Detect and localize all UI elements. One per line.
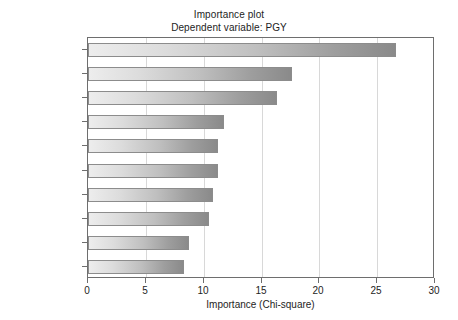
bar[interactable] [88, 212, 209, 226]
y-axis-tick-mark [82, 145, 87, 146]
bar[interactable] [88, 188, 213, 202]
y-axis-tick-mark [82, 73, 87, 74]
bar-row[interactable] [88, 139, 433, 153]
bar[interactable] [88, 164, 218, 178]
x-axis-tick-label: 30 [414, 285, 454, 296]
x-axis-tick-label: 25 [356, 285, 396, 296]
bar-row[interactable] [88, 91, 433, 105]
bar-row[interactable] [88, 236, 433, 250]
chart-title: Importance plot [0, 8, 458, 21]
bar[interactable] [88, 260, 184, 274]
bar[interactable] [88, 115, 224, 129]
bar[interactable] [88, 67, 292, 81]
x-axis-tick-mark [145, 278, 146, 283]
x-axis-tick-mark [203, 278, 204, 283]
bar[interactable] [88, 91, 277, 105]
x-axis-tick-mark [376, 278, 377, 283]
bar[interactable] [88, 236, 189, 250]
y-axis-tick-mark [82, 49, 87, 50]
bar[interactable] [88, 139, 218, 153]
y-axis-tick-mark [82, 170, 87, 171]
plot-inner [88, 38, 433, 277]
y-axis-tick-mark [82, 266, 87, 267]
y-axis-tick-mark [82, 194, 87, 195]
importance-plot-figure: Importance plot Dependent variable: PGY … [0, 0, 458, 320]
x-axis-tick-label: 5 [125, 285, 165, 296]
y-axis-tick-mark [82, 242, 87, 243]
plot-area [87, 37, 434, 278]
y-axis-tick-mark [82, 218, 87, 219]
bar-row[interactable] [88, 43, 433, 57]
x-axis-tick-label: 0 [67, 285, 107, 296]
bar-row[interactable] [88, 115, 433, 129]
x-axis-title: Importance (Chi-square) [87, 299, 434, 310]
bar-row[interactable] [88, 260, 433, 274]
x-axis-tick-mark [434, 278, 435, 283]
bar-row[interactable] [88, 164, 433, 178]
x-axis-tick-label: 15 [241, 285, 281, 296]
x-axis-tick-label: 10 [183, 285, 223, 296]
x-axis-tick-mark [318, 278, 319, 283]
y-axis-tick-mark [82, 121, 87, 122]
bar-row[interactable] [88, 67, 433, 81]
bar-row[interactable] [88, 188, 433, 202]
bar-row[interactable] [88, 212, 433, 226]
y-axis-tick-mark [82, 97, 87, 98]
x-axis-tick-label: 20 [298, 285, 338, 296]
x-axis-tick-mark [261, 278, 262, 283]
chart-title-block: Importance plot Dependent variable: PGY [0, 8, 458, 34]
bar[interactable] [88, 43, 396, 57]
x-axis-tick-mark [87, 278, 88, 283]
chart-subtitle: Dependent variable: PGY [0, 21, 458, 34]
